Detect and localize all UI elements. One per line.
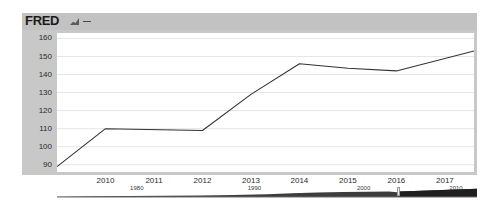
y-axis-tick-label: 140 <box>39 71 52 79</box>
y-axis-tick-label: 150 <box>39 53 52 61</box>
y-axis-tick-label: 90 <box>43 161 52 169</box>
series-line-chart <box>57 33 474 172</box>
x-axis-tick-label: 2017 <box>436 176 454 185</box>
y-axis-tick-label: 130 <box>39 89 52 97</box>
navigator-year-label: 2010 <box>449 185 462 192</box>
plot-area[interactable] <box>57 33 474 172</box>
x-axis-tick-label: 2010 <box>97 176 115 185</box>
navigator-overview[interactable] <box>57 185 477 199</box>
y-axis-tick-label: 100 <box>39 143 52 151</box>
x-axis-tick-label: 2011 <box>145 176 162 185</box>
series-line <box>57 51 474 167</box>
x-axis-tick-label: 2014 <box>290 176 308 185</box>
x-axis-tick-label: 2012 <box>194 176 212 185</box>
x-axis-tick-label: 2013 <box>242 176 260 185</box>
navigator-year-label: 1980 <box>130 185 143 192</box>
fred-chart-widget: FRED 90100110120130140150160 20102011201… <box>0 0 497 205</box>
line-chart-icon <box>70 18 79 25</box>
y-axis-tick-label: 110 <box>39 125 52 133</box>
x-axis-tick-label: 2016 <box>387 176 405 185</box>
fred-logo[interactable]: FRED <box>25 14 59 28</box>
navigator-year-label: 2000 <box>357 185 370 192</box>
chart-frame: FRED 90100110120130140150160 <box>22 13 477 175</box>
y-axis: 90100110120130140150160 <box>22 33 55 172</box>
series-line-icon <box>83 21 91 22</box>
chart-header: FRED <box>22 13 477 30</box>
navigator-year-label: 1990 <box>248 185 261 192</box>
y-axis-tick-label: 160 <box>39 34 52 42</box>
navigator-left-handle[interactable] <box>397 187 400 196</box>
date-range-navigator[interactable]: 1980199020002010 <box>57 185 477 199</box>
y-axis-tick-label: 120 <box>39 107 52 115</box>
x-axis-tick-label: 2015 <box>339 176 357 185</box>
